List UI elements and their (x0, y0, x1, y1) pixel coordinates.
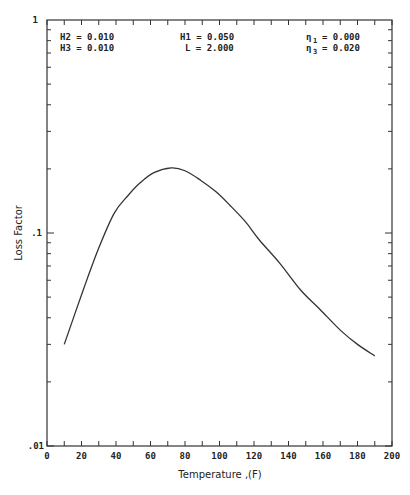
param-h3: H3 = 0.010 (60, 43, 114, 53)
y-tick-label-0.1: .1 (31, 228, 42, 238)
param-h2: H2 = 0.010 (60, 32, 114, 42)
svg-text:= 0.020: = 0.020 (322, 43, 360, 53)
x-tick-label: 60 (145, 451, 156, 461)
svg-text:= 0.000: = 0.000 (322, 32, 360, 42)
svg-text:η: η (306, 43, 311, 53)
param-h1: H1 = 0.050 (180, 32, 234, 42)
x-tick-label: 120 (246, 451, 262, 461)
y-tick-label-1: 1 (33, 15, 38, 25)
loss-factor-chart: 020406080100120140160180200 1 .1 .01 H2 … (0, 0, 410, 495)
svg-text:η: η (306, 32, 311, 42)
svg-text:3: 3 (313, 48, 317, 56)
x-tick-label: 100 (211, 451, 227, 461)
y-axis-title: Loss Factor (13, 204, 24, 261)
x-axis-tick-labels: 020406080100120140160180200 (44, 451, 400, 461)
x-axis-ticks (47, 20, 392, 446)
y-tick-label-0.01: .01 (28, 441, 44, 451)
param-l: L = 2.000 (185, 43, 234, 53)
x-tick-label: 200 (384, 451, 400, 461)
x-tick-label: 80 (180, 451, 191, 461)
x-tick-label: 0 (44, 451, 49, 461)
x-tick-label: 180 (349, 451, 365, 461)
x-tick-label: 160 (315, 451, 331, 461)
x-tick-label: 20 (76, 451, 87, 461)
x-tick-label: 140 (280, 451, 296, 461)
loss-factor-curve (64, 168, 375, 356)
x-tick-label: 40 (111, 451, 122, 461)
y-axis-ticks (47, 30, 392, 446)
x-axis-title: Temperature ,(F) (177, 469, 261, 480)
svg-text:1: 1 (313, 37, 317, 45)
plot-frame (47, 20, 392, 446)
